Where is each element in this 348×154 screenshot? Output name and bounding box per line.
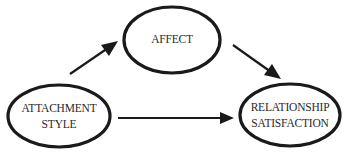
arrow-attachment-to-affect bbox=[70, 41, 118, 74]
relationship-satisfaction-node-label: RELATIONSHIP SATISFACTION bbox=[244, 99, 336, 131]
affect-node-label: AFFECT bbox=[132, 31, 212, 47]
satisfaction-label-line-2: SATISFACTION bbox=[244, 115, 336, 131]
arrowhead-icon bbox=[220, 112, 234, 124]
arrow-attachment-to-satisfaction bbox=[118, 112, 234, 124]
attachment-label-line-2: STYLE bbox=[14, 116, 104, 132]
arrowhead-icon bbox=[264, 64, 281, 79]
arrow-affect-to-satisfaction bbox=[233, 45, 281, 79]
attachment-style-node-label: ATTACHMENT STYLE bbox=[14, 100, 104, 132]
attachment-label-line-1: ATTACHMENT bbox=[14, 100, 104, 116]
satisfaction-label-line-1: RELATIONSHIP bbox=[244, 99, 336, 115]
arrowhead-icon bbox=[101, 41, 118, 56]
affect-label-line-1: AFFECT bbox=[132, 31, 212, 47]
